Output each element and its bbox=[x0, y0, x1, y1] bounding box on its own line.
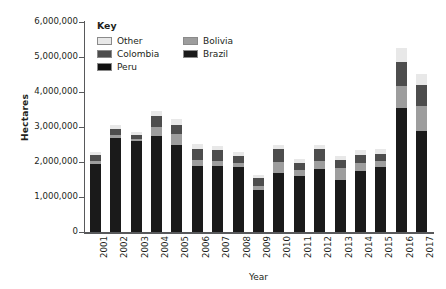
bar-segment-colombia bbox=[314, 149, 325, 161]
y-tick-mark bbox=[79, 232, 84, 233]
bar-segment-brazil bbox=[110, 138, 121, 233]
bar-segment-bolivia bbox=[171, 134, 182, 145]
legend-label-peru: Peru bbox=[117, 62, 137, 72]
bar-segment-colombia bbox=[396, 62, 407, 87]
x-tick-label-2011: 2011 bbox=[304, 236, 313, 266]
bar-segment-bolivia bbox=[151, 127, 162, 136]
bar-segment-brazil bbox=[355, 171, 366, 232]
x-tick-label-2012: 2012 bbox=[324, 236, 333, 266]
legend-label-other: Other bbox=[117, 36, 143, 46]
x-tick-label-2016: 2016 bbox=[406, 236, 415, 266]
bar-2008 bbox=[233, 152, 244, 232]
legend-swatch-brazil bbox=[183, 50, 198, 58]
y-tick-label: 2,000,000 bbox=[14, 157, 78, 166]
x-tick-label-2013: 2013 bbox=[345, 236, 354, 266]
bar-2004 bbox=[151, 111, 162, 232]
legend-label-brazil: Brazil bbox=[203, 49, 228, 59]
bar-segment-brazil bbox=[212, 166, 223, 233]
bar-segment-colombia bbox=[151, 116, 162, 127]
legend: Key OtherBoliviaColombiaBrazilPeru bbox=[97, 20, 277, 73]
bar-2013 bbox=[335, 156, 346, 232]
x-axis-title: Year bbox=[85, 272, 432, 282]
bar-segment-colombia bbox=[233, 156, 244, 163]
bar-segment-brazil bbox=[151, 136, 162, 232]
bar-segment-colombia bbox=[253, 178, 264, 186]
bar-2006 bbox=[192, 144, 203, 232]
x-tick-label-2015: 2015 bbox=[385, 236, 394, 266]
bar-2002 bbox=[110, 125, 121, 232]
bar-2005 bbox=[171, 119, 182, 232]
legend-swatch-other bbox=[97, 37, 112, 45]
bar-segment-colombia bbox=[212, 150, 223, 161]
legend-items: OtherBoliviaColombiaBrazilPeru bbox=[97, 34, 277, 73]
x-tick-label-2007: 2007 bbox=[222, 236, 231, 266]
x-tick-label-2004: 2004 bbox=[161, 236, 170, 266]
bar-segment-brazil bbox=[416, 131, 427, 233]
legend-item-colombia: Colombia bbox=[97, 49, 183, 59]
bar-2003 bbox=[131, 132, 142, 232]
legend-swatch-bolivia bbox=[183, 37, 198, 45]
legend-item-brazil: Brazil bbox=[183, 49, 273, 59]
x-axis-line bbox=[84, 232, 434, 234]
legend-swatch-colombia bbox=[97, 50, 112, 58]
bar-2017 bbox=[416, 74, 427, 232]
bar-2012 bbox=[314, 145, 325, 232]
bar-2015 bbox=[375, 149, 386, 232]
bar-segment-brazil bbox=[375, 167, 386, 232]
y-axis-title: Hectares bbox=[19, 78, 30, 158]
bar-segment-bolivia bbox=[355, 163, 366, 171]
y-tick-label: 6,000,000 bbox=[14, 17, 78, 26]
bar-segment-brazil bbox=[335, 180, 346, 233]
bar-segment-bolivia bbox=[396, 86, 407, 108]
bar-segment-brazil bbox=[396, 108, 407, 232]
bar-segment-bolivia bbox=[273, 162, 284, 173]
x-tick-label-2002: 2002 bbox=[120, 236, 129, 266]
bar-segment-brazil bbox=[233, 167, 244, 232]
bar-segment-brazil bbox=[294, 176, 305, 232]
y-tick-mark bbox=[79, 127, 84, 128]
bar-segment-colombia bbox=[273, 149, 284, 162]
y-tick-mark bbox=[79, 162, 84, 163]
legend-title: Key bbox=[97, 20, 277, 31]
bar-2016 bbox=[396, 48, 407, 232]
bar-2014 bbox=[355, 150, 366, 232]
y-tick-mark bbox=[79, 22, 84, 23]
y-tick-label: 0 bbox=[14, 227, 78, 236]
bar-segment-bolivia bbox=[416, 106, 427, 130]
legend-swatch-peru bbox=[97, 63, 112, 71]
x-tick-label-2006: 2006 bbox=[202, 236, 211, 266]
legend-item-bolivia: Bolivia bbox=[183, 36, 273, 46]
x-tick-label-2005: 2005 bbox=[181, 236, 190, 266]
bar-segment-other bbox=[416, 74, 427, 85]
x-tick-label-2017: 2017 bbox=[426, 236, 435, 266]
legend-item-peru: Peru bbox=[97, 62, 183, 72]
y-tick-label: 1,000,000 bbox=[14, 192, 78, 201]
y-tick-mark bbox=[79, 57, 84, 58]
legend-item-other: Other bbox=[97, 36, 183, 46]
bar-segment-brazil bbox=[314, 169, 325, 232]
bar-segment-colombia bbox=[192, 149, 203, 159]
bar-segment-brazil bbox=[253, 190, 264, 232]
bar-2010 bbox=[273, 145, 284, 232]
bar-segment-colombia bbox=[294, 163, 305, 170]
y-tick-mark bbox=[79, 197, 84, 198]
legend-label-bolivia: Bolivia bbox=[203, 36, 233, 46]
x-tick-label-2003: 2003 bbox=[141, 236, 150, 266]
bar-2001 bbox=[90, 152, 101, 232]
x-tick-label-2009: 2009 bbox=[263, 236, 272, 266]
bar-segment-colombia bbox=[335, 160, 346, 168]
bar-segment-colombia bbox=[355, 155, 366, 163]
y-tick-label: 5,000,000 bbox=[14, 52, 78, 61]
x-tick-label-2014: 2014 bbox=[365, 236, 374, 266]
figure: 6,000,0005,000,0004,000,0003,000,0002,00… bbox=[0, 0, 446, 289]
y-tick-mark bbox=[79, 92, 84, 93]
legend-label-colombia: Colombia bbox=[117, 49, 159, 59]
bar-segment-other bbox=[396, 48, 407, 61]
bar-segment-colombia bbox=[375, 154, 386, 161]
bar-segment-brazil bbox=[171, 145, 182, 233]
x-tick-label-2001: 2001 bbox=[100, 236, 109, 266]
x-tick-label-2010: 2010 bbox=[283, 236, 292, 266]
bar-segment-colombia bbox=[416, 85, 427, 107]
x-tick-label-2008: 2008 bbox=[243, 236, 252, 266]
bar-2009 bbox=[253, 175, 264, 232]
